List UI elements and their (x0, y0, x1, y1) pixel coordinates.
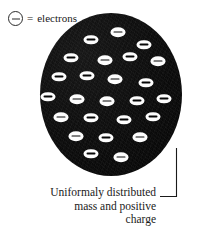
electron (122, 52, 137, 62)
electron-symbol-icon (8, 11, 23, 26)
electron (79, 71, 94, 81)
electron (68, 131, 83, 141)
electron (63, 53, 78, 63)
caption-line-3: charge (40, 213, 156, 227)
electron (114, 152, 129, 162)
electron (132, 132, 147, 142)
page-bleed-text (6, 236, 206, 244)
electron (100, 96, 115, 106)
electron (97, 55, 112, 65)
electron (138, 78, 153, 88)
electron (110, 27, 125, 37)
electron (116, 115, 131, 125)
electron (51, 72, 66, 82)
electron (108, 74, 123, 84)
electron (41, 92, 56, 102)
electron (69, 94, 84, 104)
electron (129, 96, 144, 106)
electron (157, 94, 172, 104)
caption-line-1: Uniformaly distributed (40, 186, 156, 200)
electron (53, 112, 68, 122)
caption: Uniformaly distributed mass and positive… (40, 186, 156, 227)
legend-equals-sign: = (26, 13, 34, 24)
electron (83, 35, 98, 45)
positive-charge-sphere (40, 13, 182, 176)
electron (98, 133, 113, 143)
electron (84, 113, 99, 123)
electron (151, 56, 166, 66)
electron (136, 40, 151, 50)
electron (146, 112, 161, 122)
caption-line-2: mass and positive (40, 200, 156, 214)
plum-pudding-figure: = electrons Uniformaly distributed mass … (0, 0, 211, 244)
electron (84, 149, 99, 159)
